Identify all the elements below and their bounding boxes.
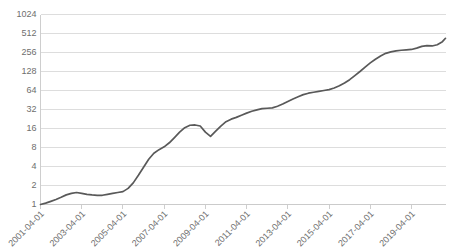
y-axis-tick-labels: 10245122561286432168421 xyxy=(16,9,36,209)
y-axis-tick-label: 4 xyxy=(31,161,36,171)
x-axis-tick-marks xyxy=(41,205,412,209)
x-axis-tick-label: 2005-04-01 xyxy=(89,209,129,249)
y-axis-tick-label: 128 xyxy=(21,66,36,76)
x-axis-tick-label: 2017-04-01 xyxy=(336,209,376,249)
gridlines-group xyxy=(41,15,446,205)
data-line-series xyxy=(41,38,446,204)
y-axis-tick-label: 8 xyxy=(31,142,36,152)
data-series-group xyxy=(41,38,446,204)
y-axis-tick-label: 16 xyxy=(26,123,36,133)
line-chart: 10245122561286432168421 2001-04-012003-0… xyxy=(0,0,455,251)
x-axis-tick-label: 2007-04-01 xyxy=(130,209,170,249)
x-axis-tick-labels: 2001-04-012003-04-012005-04-012007-04-01… xyxy=(6,209,417,249)
x-axis-tick-label: 2009-04-01 xyxy=(171,209,211,249)
y-axis-tick-label: 2 xyxy=(31,180,36,190)
y-axis-tick-label: 512 xyxy=(21,28,36,38)
x-axis-tick-label: 2013-04-01 xyxy=(254,209,294,249)
y-axis-tick-label: 1024 xyxy=(16,9,36,19)
y-axis-tick-label: 64 xyxy=(26,85,36,95)
chart-container: 10245122561286432168421 2001-04-012003-0… xyxy=(0,0,455,251)
x-axis-tick-label: 2019-04-01 xyxy=(377,209,417,249)
x-axis-tick-label: 2001-04-01 xyxy=(6,209,46,249)
x-axis-tick-label: 2015-04-01 xyxy=(295,209,335,249)
x-axis-tick-label: 2003-04-01 xyxy=(48,209,88,249)
y-axis-tick-label: 256 xyxy=(21,47,36,57)
y-axis-tick-label: 1 xyxy=(31,199,36,209)
y-axis-tick-label: 32 xyxy=(26,104,36,114)
x-axis-tick-label: 2011-04-01 xyxy=(213,209,252,248)
